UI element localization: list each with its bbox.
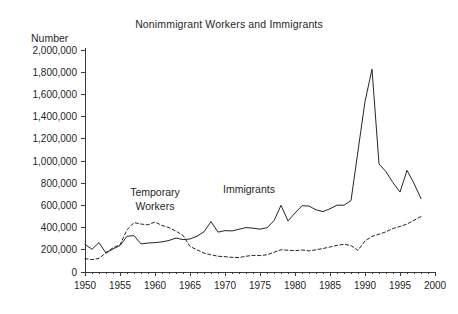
x-tick-label: 1990 xyxy=(354,280,377,291)
x-tick-label: 1960 xyxy=(144,280,167,291)
y-tick-label: 0 xyxy=(71,267,77,278)
y-tick-label: 200,000 xyxy=(41,244,78,255)
y-tick-label: 1,600,000 xyxy=(33,89,78,100)
x-tick-label: 1965 xyxy=(179,280,202,291)
y-tick-label: 1,200,000 xyxy=(33,133,78,144)
x-tick-label: 1980 xyxy=(284,280,307,291)
chart-plot-area: 0200,000400,000600,000800,0001,000,0001,… xyxy=(0,0,458,314)
y-axis-ticks: 0200,000400,000600,000800,0001,000,0001,… xyxy=(33,45,86,278)
data-series-group xyxy=(85,69,421,259)
x-tick-label: 1985 xyxy=(319,280,342,291)
y-tick-label: 800,000 xyxy=(41,178,78,189)
x-tick-label: 1995 xyxy=(389,280,412,291)
series-line-immigrants xyxy=(85,69,421,253)
annotation-temporary-workers-line1: Temporary xyxy=(130,186,180,198)
x-tick-label: 1970 xyxy=(214,280,237,291)
x-axis-ticks: 1950195519601965197019751980198519901995… xyxy=(74,272,447,291)
y-tick-label: 1,800,000 xyxy=(33,67,78,78)
y-tick-label: 1,400,000 xyxy=(33,111,78,122)
y-tick-label: 400,000 xyxy=(41,222,78,233)
x-tick-label: 2000 xyxy=(424,280,447,291)
series-annotations: TemporaryWorkersImmigrants xyxy=(130,183,275,212)
y-tick-label: 600,000 xyxy=(41,200,78,211)
chart-container: Nonimmigrant Workers and Immigrants Numb… xyxy=(0,0,458,314)
x-tick-label: 1950 xyxy=(74,280,97,291)
annotation-immigrants: Immigrants xyxy=(223,183,275,195)
x-tick-label: 1975 xyxy=(249,280,272,291)
annotation-temporary-workers-line2: Workers xyxy=(136,200,175,212)
y-tick-label: 2,000,000 xyxy=(33,45,78,56)
y-tick-label: 1,000,000 xyxy=(33,156,78,167)
x-tick-label: 1955 xyxy=(109,280,132,291)
